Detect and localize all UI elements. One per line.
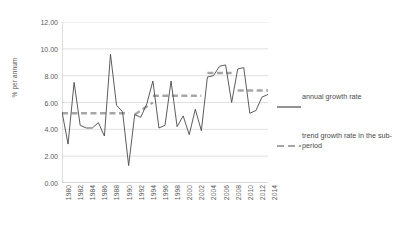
x-tick-label: 2008 xyxy=(235,185,242,200)
legend-key-dashed-line xyxy=(276,135,302,153)
x-tick-label: 1984 xyxy=(89,185,96,200)
y-tick-label: 2.00 xyxy=(44,153,58,160)
x-tick-label: 1994 xyxy=(150,185,157,200)
chart-legend: annual growth rate trend growth rate in … xyxy=(276,92,400,170)
legend-item-annual: annual growth rate xyxy=(276,92,400,114)
y-tick-label: 10.00 xyxy=(40,45,58,52)
legend-label-annual: annual growth rate xyxy=(302,92,362,102)
y-tick-label: 12.00 xyxy=(40,19,58,26)
x-tick-label: 1996 xyxy=(162,185,169,200)
legend-item-trend: trend growth rate in the sub-period xyxy=(276,131,400,153)
plot-area xyxy=(62,22,268,183)
x-tick-label: 2010 xyxy=(247,185,254,200)
y-tick-label: 0.00 xyxy=(44,180,58,187)
x-tick-label: 1986 xyxy=(101,185,108,200)
plot-svg xyxy=(62,22,268,183)
y-axis-title: % per annum xyxy=(11,38,18,118)
growth-rate-line-chart: % per annum 0.002.004.006.008.0010.0012.… xyxy=(0,0,401,227)
legend-label-trend: trend growth rate in the sub-period xyxy=(302,131,400,150)
x-tick-label: 1998 xyxy=(174,185,181,200)
y-tick-label: 8.00 xyxy=(44,72,58,79)
x-tick-label: 1982 xyxy=(77,185,84,200)
y-axis-tick-labels: 0.002.004.006.008.0010.0012.00 xyxy=(22,0,60,227)
x-tick-label: 2012 xyxy=(259,185,266,200)
y-tick-label: 6.00 xyxy=(44,99,58,106)
y-tick-label: 4.00 xyxy=(44,126,58,133)
x-tick-label: 2004 xyxy=(210,185,217,200)
x-tick-label: 1992 xyxy=(138,185,145,200)
x-axis-tick-labels: 1980198219841986198819901992199419961998… xyxy=(62,185,268,227)
x-tick-label: 1990 xyxy=(126,185,133,200)
x-tick-label: 1988 xyxy=(113,185,120,200)
x-tick-label: 1980 xyxy=(65,185,72,200)
x-tick-label: 2000 xyxy=(186,185,193,200)
legend-key-solid-line xyxy=(276,96,302,114)
x-tick-label: 2002 xyxy=(198,185,205,200)
x-tick-label: 2006 xyxy=(223,185,230,200)
x-tick-label: 2014 xyxy=(271,185,278,200)
